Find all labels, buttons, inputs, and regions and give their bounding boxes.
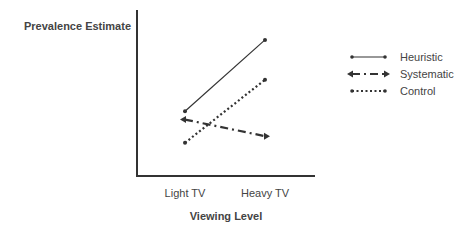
series-layer: [180, 38, 270, 145]
legend-label: Heuristic: [400, 51, 443, 63]
legend-marker: [383, 89, 387, 93]
x-tick-label: Heavy TV: [241, 187, 290, 199]
legend-marker: [347, 71, 353, 78]
legend-marker: [350, 55, 354, 59]
legend-item: Heuristic: [350, 51, 443, 63]
data-point: [263, 38, 267, 42]
data-point: [264, 133, 270, 140]
data-point: [183, 141, 187, 145]
legend-label: Control: [400, 85, 435, 97]
data-point: [263, 78, 267, 82]
legend-marker: [350, 89, 354, 93]
x-axis-label: Viewing Level: [190, 210, 263, 222]
legend-label: Systematic: [400, 68, 454, 80]
legend-marker: [384, 71, 390, 78]
legend-marker: [383, 55, 387, 59]
legend-item: Control: [350, 85, 435, 97]
data-point: [180, 116, 186, 123]
chart: Prevalence Estimate Light TV Heavy TV Vi…: [0, 0, 473, 234]
data-point: [183, 109, 187, 113]
x-tick-label: Light TV: [165, 187, 206, 199]
legend: HeuristicSystematicControl: [347, 51, 454, 97]
legend-item: Systematic: [347, 68, 454, 80]
y-axis-label: Prevalence Estimate: [24, 20, 131, 32]
series-control: [183, 78, 267, 145]
series-heuristic: [183, 38, 267, 113]
series-line: [185, 80, 265, 143]
series-line: [185, 40, 265, 111]
